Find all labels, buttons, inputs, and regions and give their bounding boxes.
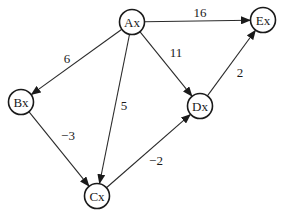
node-label: Bx: [13, 95, 29, 110]
arrow-icon: [144, 20, 250, 22]
edge-weight-label: 2: [237, 65, 244, 80]
node-label: Dx: [192, 99, 208, 114]
edge-weight-label: −3: [61, 128, 75, 143]
edge-d-e: [207, 30, 255, 95]
node-label: Cx: [89, 189, 105, 204]
edge-weight-label: 5: [121, 98, 128, 113]
node-b: Bx: [9, 90, 34, 115]
arrow-icon: [29, 112, 89, 186]
node-d: Dx: [188, 94, 213, 119]
edge-weight-label: 11: [170, 45, 183, 60]
node-c: Cx: [85, 184, 110, 209]
edge-b-c: [29, 112, 89, 186]
arrow-icon: [32, 29, 122, 94]
edge-a-d: [140, 32, 192, 96]
node-e: Ex: [251, 8, 276, 33]
edges-layer: [29, 20, 255, 188]
arrow-icon: [106, 115, 190, 188]
node-label: Ex: [256, 13, 271, 28]
edge-weight-label: −2: [149, 153, 163, 168]
node-label: Ax: [124, 15, 140, 30]
arrow-icon: [140, 32, 192, 96]
arrow-icon: [207, 30, 255, 95]
edge-c-d: [106, 115, 190, 188]
node-a: Ax: [120, 10, 145, 35]
edge-a-e: [144, 20, 250, 22]
edge-weight-label: 16: [194, 5, 208, 20]
nodes-layer: AxBxCxDxEx: [9, 8, 276, 209]
edge-weight-label: 6: [64, 51, 71, 66]
edge-a-b: [32, 29, 122, 94]
graph-canvas: 1661152−3−2 AxBxCxDxEx: [0, 0, 286, 221]
edge-weights-layer: 1661152−3−2: [61, 5, 243, 168]
